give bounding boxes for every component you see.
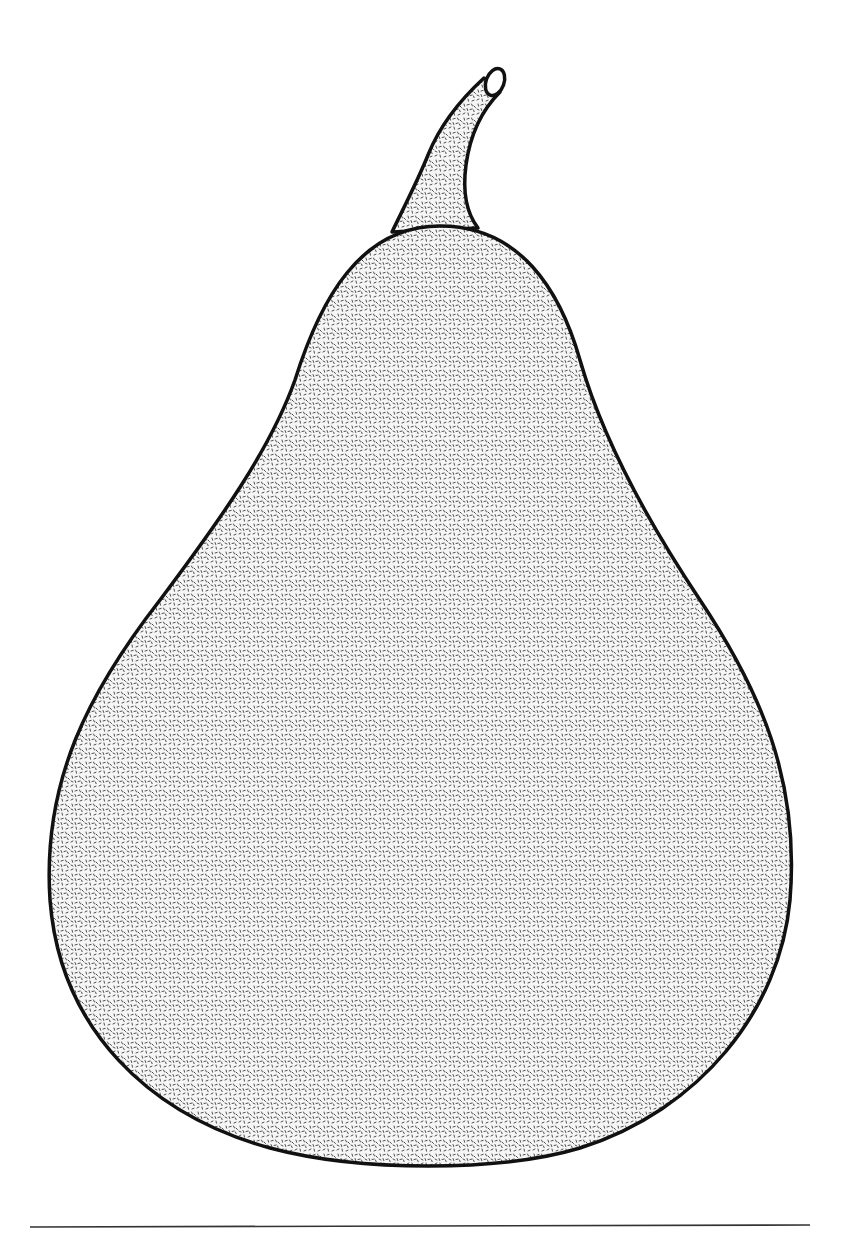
pear-body: [49, 226, 791, 1166]
pear-illustration: [0, 0, 844, 1236]
pear-stem-tip: [482, 66, 508, 98]
illustration-canvas: pear: [0, 0, 844, 1236]
baseline-rule: [30, 1225, 810, 1227]
pear-stem: [392, 78, 500, 232]
